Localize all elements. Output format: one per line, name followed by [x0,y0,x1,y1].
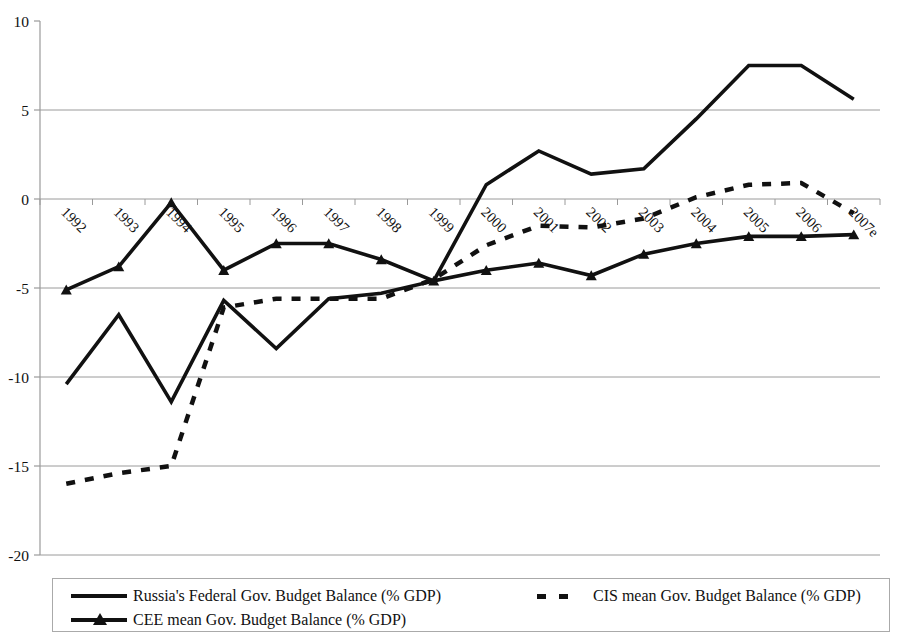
legend-swatch-dashed-line-icon [531,589,587,603]
legend-swatch-triangle-line-icon [71,613,127,627]
y-tick-label: 5 [21,102,29,119]
x-tick-label: 1998 [373,204,405,236]
x-tick-label: 2004 [688,204,720,236]
y-tick-marks [34,21,40,555]
y-tick-label: -20 [8,547,29,564]
legend-item-russia: Russia's Federal Gov. Budget Balance (% … [71,587,441,605]
budget-balance-chart: 1050-5-10-15-20 199219931994199519961997… [0,0,902,634]
y-tick-label: -10 [8,369,29,386]
x-tick-label: 2001 [531,204,563,236]
y-tick-label: -15 [8,458,29,475]
x-tick-label: 1993 [111,204,143,236]
legend-label-cis: CIS mean Gov. Budget Balance (% GDP) [593,587,861,605]
x-tick-label: 2006 [793,204,825,236]
x-tick-label: 2005 [741,204,773,236]
y-tick-label: 0 [21,191,29,208]
legend-item-cis: CIS mean Gov. Budget Balance (% GDP) [531,587,861,605]
x-tick-marks [40,199,880,205]
legend-label-russia: Russia's Federal Gov. Budget Balance (% … [133,587,441,605]
x-tick-label: 1995 [216,204,248,236]
y-tick-label: 10 [14,13,30,30]
x-tick-label: 2002 [583,204,615,236]
x-tick-label: 1999 [426,204,458,236]
chart-legend: Russia's Federal Gov. Budget Balance (% … [52,578,890,632]
gridlines [40,110,880,555]
x-tick-label: 1992 [58,204,90,236]
x-tick-label: 1996 [268,204,300,236]
y-tick-label: -5 [16,280,29,297]
legend-label-cee: CEE mean Gov. Budget Balance (% GDP) [133,611,406,629]
legend-item-cee: CEE mean Gov. Budget Balance (% GDP) [71,611,406,629]
data-series-layer [61,66,860,484]
x-tick-label: 1997 [321,204,353,236]
chart-canvas: 1050-5-10-15-20 199219931994199519961997… [0,0,902,634]
x-tick-label: 2000 [478,204,510,236]
legend-swatch-solid-line-icon [71,589,127,603]
y-tick-labels: 1050-5-10-15-20 [8,13,29,564]
